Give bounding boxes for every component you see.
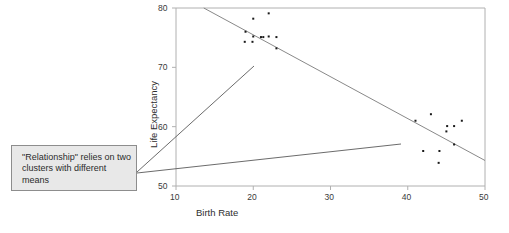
- x-axis-ticks: [176, 186, 485, 190]
- x-axis-title: Birth Rate: [196, 207, 238, 218]
- scatter-plot-figure: 1020304050 50607080 Birth Rate Life Expe…: [0, 0, 509, 233]
- y-tick-label: 60: [158, 122, 167, 132]
- y-axis-ticks: [172, 8, 176, 186]
- data-points: [244, 12, 463, 164]
- plot-frame: [176, 8, 485, 186]
- y-tick-label: 80: [158, 3, 167, 13]
- annotation-leader-lines: [137, 66, 401, 173]
- x-tick-label: 20: [247, 192, 256, 202]
- y-tick-label: 50: [158, 181, 167, 191]
- x-tick-label: 30: [325, 192, 334, 202]
- y-tick-label: 70: [158, 62, 167, 72]
- annotation-callout-text: "Relationship" relies on two clusters wi…: [22, 152, 134, 186]
- annotation-callout-box: "Relationship" relies on two clusters wi…: [11, 145, 137, 191]
- y-axis-title: Life Expectancy: [148, 81, 159, 148]
- x-tick-label: 10: [170, 192, 179, 202]
- x-tick-label: 40: [402, 192, 411, 202]
- x-tick-label: 50: [479, 192, 488, 202]
